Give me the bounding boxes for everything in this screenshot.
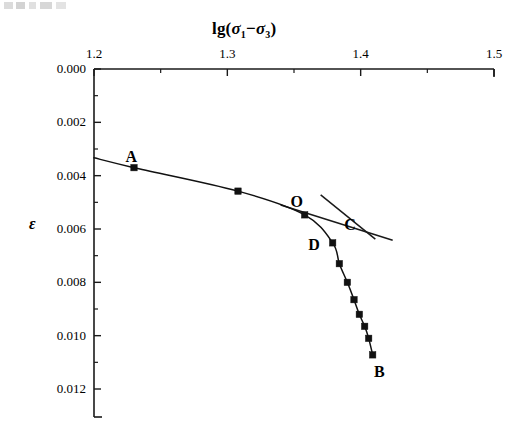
series-line (94, 158, 373, 355)
chart-figure: lg(σ1−σ3) ε 1.21.31.41.50.0000.0020.0040… (0, 0, 529, 445)
data-point-marker (361, 323, 367, 329)
point-label-c: C (344, 216, 356, 234)
data-point-marker (344, 279, 350, 285)
point-label-a: A (126, 148, 138, 166)
data-point-marker (356, 311, 362, 317)
data-point-marker (369, 352, 375, 358)
y-axis-tick-label: 0.010 (36, 328, 86, 344)
data-point-marker (235, 188, 241, 194)
axis-ticks (94, 69, 494, 389)
y-axis-tick-label: 0.002 (36, 114, 86, 130)
y-axis-tick-label: 0.008 (36, 274, 86, 290)
point-label-o: O (290, 193, 302, 211)
data-point-marker (301, 212, 307, 218)
x-axis-tick-label: 1.3 (219, 46, 235, 62)
data-series-strain-curve (94, 158, 376, 358)
x-axis-tick-label: 1.5 (486, 46, 502, 62)
y-axis-tick-label: 0.000 (36, 61, 86, 77)
data-point-marker (336, 260, 342, 266)
y-axis-tick-label: 0.004 (36, 168, 86, 184)
x-axis-tick-label: 1.4 (353, 46, 369, 62)
point-label-b: B (374, 363, 385, 381)
data-point-marker (329, 240, 335, 246)
axis-spines (94, 69, 494, 417)
x-axis-tick-label: 1.2 (86, 46, 102, 62)
data-point-marker (351, 296, 357, 302)
y-axis-tick-label: 0.012 (36, 381, 86, 397)
y-axis-tick-label: 0.006 (36, 221, 86, 237)
point-label-d: D (308, 236, 320, 254)
data-point-marker (365, 335, 371, 341)
